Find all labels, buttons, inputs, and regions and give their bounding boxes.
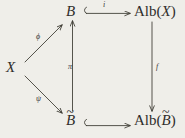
node-Alb-X-arg: X [162,3,171,19]
arrow-bottom-inclusion-hook-tail [84,119,86,125]
node-Alb-X-suffix: ) [171,3,176,19]
arrow-label-phi: ϕ [36,33,40,41]
arrow-label-psi: ψ [36,95,41,103]
node-Alb-B-tilde-arg-wrap: ~B [162,113,171,128]
node-B-tilde-base-wrap: ~ B [66,113,75,128]
arrow-psi [25,76,62,113]
node-Alb-B-tilde-prefix: Alb( [134,112,162,128]
arrow-label-i: i [103,1,105,9]
node-B-label: B [66,3,75,19]
arrow-phi [25,25,62,62]
arrow-i-hook-tail [84,7,86,13]
node-Alb-B-tilde-suffix: ) [171,112,176,128]
commutative-diagram: X B ~ B Alb(X) Alb(~B) ϕ ψ π i f [0,0,185,138]
node-Alb-X-prefix: Alb( [134,3,162,19]
tilde-accent-icon: ~ [162,106,169,120]
node-B-tilde: ~ B [66,113,75,128]
arrow-label-pi: π [68,63,72,71]
node-Alb-X: Alb(X) [134,4,176,19]
tilde-accent-icon: ~ [66,106,73,120]
node-X-label: X [6,59,15,75]
node-X: X [6,60,15,75]
arrow-label-f: f [156,63,158,71]
node-B: B [66,4,75,19]
node-Alb-B-tilde: Alb(~B) [134,113,176,128]
